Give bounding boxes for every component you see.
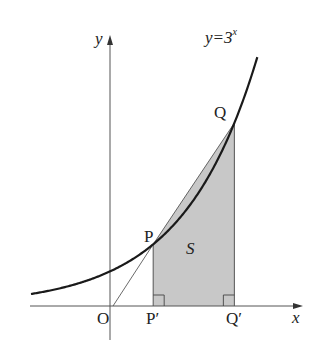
curve-label-base: y=3 xyxy=(205,28,233,47)
diagram-root: y x y=3x O P Q P′ Q′ S xyxy=(0,0,321,363)
curve-label-exponent: x xyxy=(233,26,237,37)
point-p-prime-label: P′ xyxy=(146,310,159,327)
origin-label: O xyxy=(97,310,109,327)
x-axis-label: x xyxy=(292,309,300,326)
region-s-label: S xyxy=(186,240,195,257)
curve-label: y=3x xyxy=(205,29,237,46)
point-p-label: P xyxy=(144,228,153,245)
point-q-label: Q xyxy=(214,104,226,121)
segment-op xyxy=(113,244,153,306)
y-axis-label: y xyxy=(95,30,103,47)
y-axis-arrow-icon xyxy=(107,35,113,45)
diagram-canvas xyxy=(0,0,321,363)
point-q-prime-label: Q′ xyxy=(226,310,242,327)
